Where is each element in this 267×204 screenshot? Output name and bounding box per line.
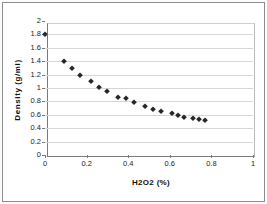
y-tick-mark: [42, 88, 45, 89]
x-tick-label: 0.6: [158, 160, 182, 168]
x-tick-mark: [170, 155, 171, 158]
scatter-point: [69, 65, 74, 70]
y-gridline: [45, 142, 253, 143]
chart-image: 00.20.40.60.811.21.41.61.8200.20.40.60.8…: [0, 0, 267, 204]
x-tick-mark: [87, 155, 88, 158]
scatter-point: [42, 32, 47, 37]
y-tick-mark: [42, 101, 45, 102]
y-tick-mark: [42, 21, 45, 22]
x-tick-label: 0.8: [199, 160, 223, 168]
x-tick-mark: [253, 155, 254, 158]
x-tick-label: 0.4: [116, 160, 140, 168]
y-tick-label: 1.8: [1, 30, 41, 38]
x-axis-title: H2O2 (%): [47, 178, 255, 187]
scatter-point: [124, 96, 129, 101]
scatter-point: [190, 116, 195, 121]
x-tick-label: 0: [33, 160, 57, 168]
y-gridline: [45, 128, 253, 129]
x-tick-label: 0.2: [75, 160, 99, 168]
y-tick-label: 0: [1, 151, 41, 159]
y-gridline: [45, 101, 253, 102]
scatter-point: [176, 112, 181, 117]
y-gridline: [45, 88, 253, 89]
scatter-point: [203, 118, 208, 123]
y-tick-label: 1.6: [1, 44, 41, 52]
y-tick-label: 2: [1, 17, 41, 25]
scatter-point: [132, 100, 137, 105]
y-gridline: [45, 75, 253, 76]
scatter-point: [196, 116, 201, 121]
y-gridline: [45, 61, 253, 62]
y-tick-mark: [42, 48, 45, 49]
scatter-point: [88, 79, 93, 84]
y-tick-mark: [42, 128, 45, 129]
y-gridline: [45, 48, 253, 49]
scatter-point: [151, 107, 156, 112]
x-tick-mark: [128, 155, 129, 158]
y-gridline: [45, 34, 253, 35]
y-tick-mark: [42, 61, 45, 62]
scatter-point: [182, 115, 187, 120]
x-tick-label: 1: [241, 160, 265, 168]
y-tick-mark: [42, 142, 45, 143]
scatter-point: [78, 72, 83, 77]
chart-frame: 00.20.40.60.811.21.41.61.8200.20.40.60.8…: [2, 2, 265, 202]
chart-layer: 00.20.40.60.811.21.41.61.8200.20.40.60.8…: [1, 1, 267, 204]
y-tick-label: 0.2: [1, 138, 41, 146]
y-tick-mark: [42, 75, 45, 76]
y-tick-mark: [42, 115, 45, 116]
scatter-point: [61, 59, 66, 64]
y-tick-label: 0.4: [1, 124, 41, 132]
scatter-point: [105, 89, 110, 94]
x-tick-mark: [45, 155, 46, 158]
scatter-point: [115, 94, 120, 99]
scatter-point: [142, 104, 147, 109]
y-axis-title: Density (g/ml): [13, 59, 22, 120]
x-tick-mark: [211, 155, 212, 158]
scatter-point: [159, 108, 164, 113]
y-gridline: [45, 115, 253, 116]
